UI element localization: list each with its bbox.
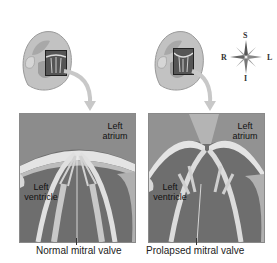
- prolapsed-valve-caption: Prolapsed mitral valve: [146, 245, 244, 256]
- prolapsed-left-ventricle-label: Left ventricle: [151, 182, 189, 202]
- normal-caption-leader-line: [76, 238, 77, 245]
- compass-star-icon: [230, 40, 262, 74]
- normal-left-ventricle-label: Left ventricle: [22, 182, 60, 202]
- compass-inferior-label: I: [244, 74, 247, 83]
- compass-right-label: R: [221, 53, 227, 62]
- normal-valve-panel: Left atrium Left ventricle: [19, 113, 136, 243]
- compass-superior-label: S: [243, 31, 247, 40]
- compass-left-label: L: [267, 53, 272, 62]
- normal-curved-arrow: [62, 65, 102, 115]
- normal-left-atrium-label: Left atrium: [97, 121, 133, 141]
- normal-valve-caption: Normal mitral valve: [36, 245, 122, 256]
- prolapsed-caption-leader-line: [196, 238, 197, 245]
- compass-rose: S I R L: [222, 32, 270, 82]
- prolapsed-valve-panel: Left atrium Left ventricle: [148, 113, 265, 243]
- prolapsed-left-atrium-label: Left atrium: [227, 121, 263, 141]
